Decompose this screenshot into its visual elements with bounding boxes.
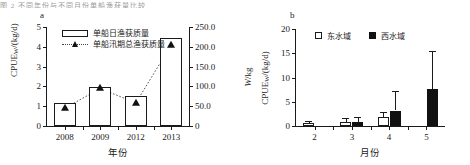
panel-b-x-tick [389, 126, 390, 130]
panel-b-y-axis-title-unit: /(kg/d) [260, 51, 270, 76]
panel-b-x-tick [315, 126, 316, 130]
panel-b-y-tick-label: 10 [281, 73, 290, 82]
panel-a-y-axis-title-sub: W [12, 47, 19, 53]
panel-b-bar-west [390, 111, 401, 127]
panel-b-legend-label-0: 东水域 [327, 30, 351, 41]
panel-a-legend-item-1: 单船汛期总渔获质量 [62, 39, 165, 50]
panel-a-y2-tick-label: 50.0 [195, 102, 211, 111]
panel-b: b CPUEW/(kg/d) 月份 051015202345 东水域 西水域 [235, 0, 470, 165]
panel-a-marker-triangle [61, 104, 69, 111]
panel-a-legend: 单船日渔获质量 单船汛期总渔获质量 [62, 28, 165, 50]
panel-a-y-tick [43, 27, 47, 28]
panel-a-y-tick [43, 106, 47, 107]
panel-b-y-tick-label: 20 [281, 25, 290, 34]
panel-a-letter: a [40, 10, 44, 20]
panel-a-x-tick-label: 2013 [162, 133, 180, 142]
panel-a: a CPUEW/(kg/d) W/kg 年份 012345050.0100.01… [0, 0, 235, 165]
panel-b-y-tick [292, 102, 296, 103]
panel-a-x-tick-label: 2008 [56, 133, 74, 142]
panel-b-y-tick-label: 15 [281, 49, 290, 58]
panel-a-y-tick [43, 126, 47, 127]
panel-b-bar-east [378, 117, 389, 126]
panel-a-legend-label-1: 单船汛期总渔获质量 [93, 39, 165, 50]
panel-a-x-boundary-tick [118, 126, 119, 130]
panel-b-legend-label-1: 西水域 [381, 30, 405, 41]
panel-b-y-tick [292, 126, 296, 127]
panel-b-bar-west [427, 89, 438, 126]
panel-b-legend-item-1: 西水域 [369, 30, 405, 41]
panel-a-x-boundary-tick [154, 126, 155, 130]
panel-a-x-tick-label: 2012 [127, 133, 145, 142]
panel-a-y-tick-label: 0 [37, 122, 42, 131]
square-black-icon [369, 32, 376, 39]
panel-b-errorbar-east-cap [342, 118, 349, 119]
panel-a-marker-triangle [167, 41, 175, 48]
panel-b-x-tick [426, 126, 427, 130]
dotted-line-triangle-icon [62, 41, 88, 48]
panel-b-legend: 东水域 西水域 [315, 30, 405, 41]
panel-a-y2-tick [189, 27, 193, 28]
panel-b-errorbar-west-cap [354, 117, 361, 118]
panel-b-legend-item-0: 东水域 [315, 30, 351, 41]
panel-a-y2-tick [189, 86, 193, 87]
panel-b-y-tick [292, 78, 296, 79]
panel-a-marker-triangle [132, 99, 140, 106]
panel-b-x-boundary-tick [371, 126, 372, 130]
panel-a-y-tick [43, 86, 47, 87]
panel-b-y-tick-label: 0 [286, 122, 291, 131]
panel-a-y-axis-title-main: CPUE [9, 53, 19, 76]
panel-a-x-axis-title: 年份 [108, 145, 128, 159]
panel-a-x-tick [100, 126, 101, 130]
panel-a-x-tick [65, 126, 66, 130]
panel-b-y-axis-title-sub: W [263, 75, 270, 81]
panel-b-bar-east [340, 122, 351, 126]
panel-b-y-tick [292, 53, 296, 54]
square-white-icon [315, 32, 322, 39]
panel-b-x-tick-label: 3 [350, 133, 355, 142]
panel-a-y2-tick-label: 0 [195, 122, 200, 131]
panel-b-errorbar-west-cap [429, 51, 436, 52]
panel-b-errorbar-east-cap [305, 121, 312, 122]
panel-b-bar-east [303, 123, 314, 126]
panel-b-letter: b [290, 10, 295, 20]
panel-b-errorbar-east-cap [380, 112, 387, 113]
panel-a-x-tick-label: 2009 [91, 133, 109, 142]
panel-a-bar [160, 38, 182, 126]
figure-root: 图 2 不同年份与不同月份单船渔获量比较 a CPUEW/(kg/d) W/kg… [0, 0, 470, 165]
panel-a-x-tick [136, 126, 137, 130]
panel-a-y-tick-label: 3 [37, 62, 42, 71]
panel-a-x-boundary-tick [83, 126, 84, 130]
panel-b-y-axis-title: CPUEW/(kg/d) [260, 51, 270, 105]
panel-b-x-tick [352, 126, 353, 130]
panel-a-y-tick [43, 47, 47, 48]
panel-a-y-axis-title-unit: /(kg/d) [9, 23, 19, 48]
panel-a-y2-tick [189, 126, 193, 127]
panel-a-legend-label-0: 单船日渔获质量 [93, 28, 149, 39]
panel-a-x-tick [171, 126, 172, 130]
panel-b-y-tick [292, 29, 296, 30]
panel-a-marker-triangle [96, 84, 104, 91]
panel-a-y-tick-label: 4 [37, 42, 42, 51]
panel-b-y-axis-title-main: CPUE [260, 81, 270, 104]
panel-a-y2-tick-label: 150.0 [195, 62, 215, 71]
panel-a-bar [89, 87, 111, 126]
panel-b-x-axis-title: 月份 [360, 145, 380, 159]
bar-white-icon [62, 30, 88, 37]
panel-b-errorbar-west-cap [392, 91, 399, 92]
panel-a-y-tick [43, 67, 47, 68]
panel-b-errorbar-west [395, 91, 396, 110]
panel-a-y-tick-label: 1 [37, 102, 42, 111]
panel-a-y-tick-label: 2 [37, 82, 42, 91]
panel-a-legend-item-0: 单船日渔获质量 [62, 28, 165, 39]
panel-b-plot-area: 051015202345 [295, 29, 445, 127]
panel-a-y2-tick [189, 67, 193, 68]
panel-b-x-tick-label: 4 [387, 133, 392, 142]
panel-b-x-tick-label: 5 [424, 133, 429, 142]
panel-a-y2-tick-label: 250.0 [195, 23, 215, 32]
panel-b-errorbar-west [432, 51, 433, 89]
panel-a-y2-tick-label: 200.0 [195, 42, 215, 51]
panel-b-y-tick-label: 5 [286, 97, 291, 106]
panel-b-bar-west [352, 122, 363, 126]
panel-b-x-boundary-tick [333, 126, 334, 130]
panel-a-y2-tick [189, 106, 193, 107]
